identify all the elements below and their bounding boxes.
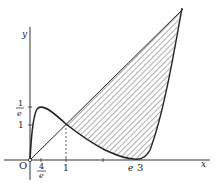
x-label-4: 4 [39,162,44,171]
y-label-1-over-e-num: 1 [18,99,23,108]
y-label-1: 1 [18,120,24,130]
x-axis-label: x [201,159,206,169]
diagram-canvas: y x O 4 e 1 e 3 1 e 1 [0,0,217,189]
origin-label: O [19,160,27,171]
y-axis-label: y [21,29,28,39]
x-label-e: e [128,163,133,173]
origin-point [28,158,31,161]
x-label-e-denominator: e [39,171,44,180]
x-label-3: 3 [137,162,143,173]
x-label-1: 1 [63,163,69,173]
y-label-e-denominator: e [17,109,22,118]
